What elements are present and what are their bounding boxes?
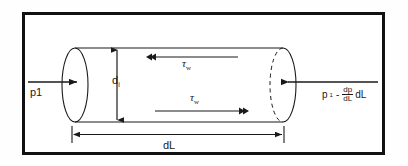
figure-canvas: p1 di τw τw dL p1 - dp dL dL	[0, 0, 408, 166]
outlet-minus-sign: -	[336, 90, 339, 100]
tau-top-subscript: w	[186, 64, 191, 72]
tau-top-label: τw	[182, 58, 191, 72]
outlet-pressure-label: p1 - dp dL dL	[322, 86, 366, 103]
cylinder-right-cap-visible	[283, 48, 296, 122]
cylinder-right-cap-hidden	[270, 48, 283, 122]
length-label: dL	[163, 140, 175, 151]
tau-bottom-label: τw	[190, 92, 199, 106]
fraction-numerator: dp	[342, 86, 353, 94]
pipe-element-drawing	[0, 0, 408, 166]
fraction-denominator: dL	[342, 95, 353, 103]
outlet-trailing-term: dL	[355, 90, 366, 100]
outlet-pressure-symbol: p	[322, 90, 328, 100]
diameter-subscript: i	[118, 81, 120, 88]
tau-bottom-arrow	[155, 107, 249, 114]
diameter-label: di	[112, 75, 120, 88]
outlet-pressure-subscript: 1	[330, 92, 333, 98]
cylinder-left-cap	[62, 48, 88, 122]
length-dimension	[72, 126, 284, 143]
tau-top-arrow	[146, 53, 238, 60]
pressure-gradient-fraction: dp dL	[342, 86, 353, 103]
tau-bottom-subscript: w	[194, 98, 199, 106]
inlet-pressure-label: p1	[30, 87, 42, 98]
